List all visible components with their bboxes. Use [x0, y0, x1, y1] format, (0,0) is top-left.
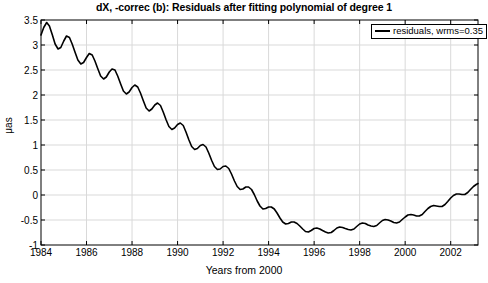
legend-line-swatch: [375, 30, 390, 32]
chart-legend: residuals, wrms=0.35: [371, 24, 487, 39]
legend-label-residuals: residuals, wrms=0.35: [393, 26, 483, 36]
plot-background: [41, 20, 478, 245]
chart-figure: dX, -correc (b): Residuals after fitting…: [0, 0, 488, 283]
plot-area: [0, 0, 488, 283]
